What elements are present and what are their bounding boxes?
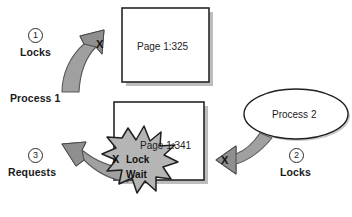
step-label-locks-1: Locks <box>20 47 51 58</box>
page-box-325-label: Page 1:325 <box>137 41 188 52</box>
x-mark-top: X <box>96 39 103 50</box>
diagram-canvas: 1 Locks Process 1 3 Requests 2 Locks Pag… <box>0 0 352 217</box>
step-label-locks-2: Locks <box>280 167 311 178</box>
lock-wait-line-2: Wait <box>126 170 147 180</box>
step-label-requests: Requests <box>8 167 56 178</box>
x-mark-right: X <box>221 155 228 166</box>
x-mark-bottom-left: X <box>112 154 119 165</box>
process-2-label: Process 2 <box>272 110 316 120</box>
step-number-3: 3 <box>28 148 43 163</box>
step-number-1: 1 <box>28 28 43 43</box>
lock-wait-line-1: Lock <box>126 155 149 165</box>
page-box-341-label: Page 1:341 <box>140 140 191 151</box>
step-number-2: 2 <box>289 148 304 163</box>
process-1-label: Process 1 <box>10 93 61 104</box>
